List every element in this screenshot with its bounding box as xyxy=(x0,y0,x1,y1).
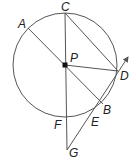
geometry-diagram: A C P D B E F G xyxy=(0,0,136,164)
label-f: F xyxy=(54,118,62,132)
ray-gd xyxy=(67,57,128,150)
label-c: C xyxy=(61,0,70,14)
radius-pd xyxy=(65,65,118,71)
label-d: D xyxy=(120,69,129,83)
label-g: G xyxy=(69,146,78,160)
label-a: A xyxy=(17,17,26,31)
label-b: B xyxy=(103,103,111,117)
segment-cg xyxy=(65,13,67,150)
label-p: P xyxy=(70,51,78,65)
label-e: E xyxy=(91,115,100,129)
center-point-p xyxy=(63,63,68,68)
